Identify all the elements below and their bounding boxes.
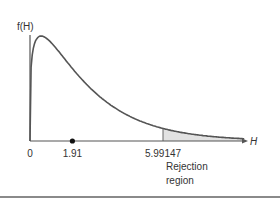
x-tick-label: 1.91 [63,148,83,159]
x-tick-label: 0 [27,148,33,159]
rejection-region-label-line1: Rejection [166,161,208,172]
rejection-region-label-line2: region [166,175,194,186]
chi-square-chart: f(H) H 01.915.99147 Rejection region [0,0,280,202]
x-tick-label: 5.99147 [145,148,182,159]
rejection-region-shading [163,129,245,142]
y-axis-label: f(H) [17,21,34,32]
bottom-rule [0,196,280,198]
density-curve [30,36,244,141]
observed-statistic-point [70,138,75,143]
x-axis-label: H [250,136,258,147]
